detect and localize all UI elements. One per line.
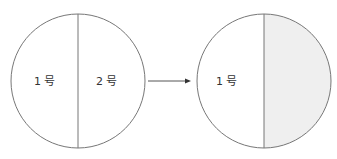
transition-arrow [148,79,191,84]
arrow-head-icon [185,79,191,84]
left-circle: 1 号 2 号 [11,14,145,148]
left-circle-label-1: 1 号 [34,75,56,88]
right-circle: 1 号 [197,14,331,148]
right-circle-shaded-half [264,14,331,148]
left-circle-label-2: 2 号 [96,75,118,88]
right-circle-label-1: 1 号 [216,75,238,88]
diagram-canvas: 1 号 2 号 1 号 [0,0,337,159]
